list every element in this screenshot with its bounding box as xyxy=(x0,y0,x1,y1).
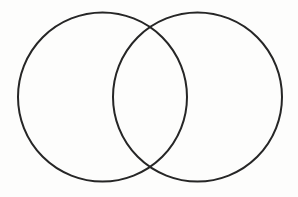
venn-diagram-figure xyxy=(0,0,298,197)
venn-diagram-canvas xyxy=(0,0,298,197)
